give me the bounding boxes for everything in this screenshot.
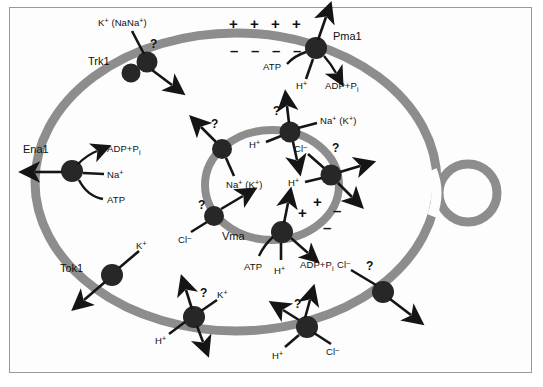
- pm-kh-up-arrow: [186, 290, 192, 309]
- vma-h-label: H+: [274, 265, 285, 277]
- vac-na-left-in-arrow: [226, 158, 234, 176]
- trk1-name-label: Trk1: [88, 55, 110, 67]
- pm-clh-out-arrow: [283, 310, 299, 320]
- vac-clh-cl-arrow: [308, 154, 324, 168]
- ena1-adp-label: ADP+Pi: [107, 143, 141, 156]
- vma-adp-label: ADP+Pi: [300, 259, 334, 272]
- pm-kh-k-label: K+: [217, 289, 228, 301]
- vac-nah-h-label: H+: [249, 139, 260, 151]
- pm-clh-cl-arrow: [314, 333, 331, 344]
- pma1-proton-label: H+: [296, 80, 307, 92]
- charge-plus: +: [250, 15, 259, 32]
- pm-clh-h-label: H+: [272, 350, 283, 362]
- budding-daughter-cell: [439, 164, 497, 222]
- vma-protein-body: [271, 221, 293, 243]
- vac-cl-left-in-arrow: [221, 196, 243, 209]
- pm-kh-k-arrow: [201, 300, 217, 311]
- trk1-efflux-arrow: [152, 70, 172, 85]
- pm-cl-label: Cl–: [337, 259, 350, 271]
- tok1-k-influx-arrow: [119, 251, 139, 268]
- transporter-vma[interactable]: Vma ATP H+ ADP+Pi: [222, 203, 334, 276]
- yeast-cell-diagram: + + + + – – – – + + – – K+ (NaNa+) ? Trk…: [0, 0, 543, 387]
- vac-charge-minus: –: [333, 202, 341, 219]
- pma1-adp-arrow: [324, 56, 336, 73]
- pma1-name-label: Pma1: [333, 30, 362, 42]
- vac-nah-protein-body: [280, 122, 301, 143]
- ena1-na-influx-arrow: [83, 173, 104, 174]
- transporter-ena1[interactable]: Ena1 ADP+Pi Na+ ATP: [23, 143, 141, 205]
- ena1-atp-arrow: [79, 180, 103, 199]
- trk1-unknown-marker: ?: [150, 37, 157, 51]
- pm-clh-cl-label: Cl–: [326, 346, 339, 358]
- pma1-adp-label: ADP+Pi: [325, 80, 359, 93]
- vac-clh-h-arrow: [305, 178, 322, 182]
- transporter-pm-kh-antiporter[interactable]: ? K+ H+: [155, 286, 228, 346]
- vac-charge-plus: +: [298, 204, 307, 221]
- vac-na-left-label: Na+ (K+): [226, 179, 262, 191]
- pm-kh-h-label: H+: [155, 335, 166, 347]
- charge-plus: +: [271, 15, 280, 32]
- vac-clh-unknown-marker: ?: [332, 141, 339, 155]
- figure-canvas: + + + + – – – – + + – – K+ (NaNa+) ? Trk…: [0, 0, 543, 387]
- vma-h-pump-arrow: [284, 203, 288, 223]
- ena1-adp-arrow: [78, 151, 97, 164]
- trk1-protein-body-2: [122, 64, 141, 83]
- pm-cl-unknown-marker: ?: [366, 259, 373, 273]
- pma1-atp-label: ATP: [263, 61, 281, 72]
- pm-kh-unknown-marker: ?: [200, 286, 207, 300]
- vac-na-left-unknown-marker: ?: [211, 117, 218, 131]
- vac-nah-unknown-marker: ?: [273, 104, 280, 118]
- ena1-na-label: Na+: [107, 169, 124, 181]
- tok1-k-label: K+: [136, 240, 147, 252]
- vac-charge-minus: –: [323, 219, 331, 236]
- vac-cl-left-out-arrow: [191, 222, 207, 232]
- charge-plus: +: [292, 15, 301, 32]
- charge-minus: –: [251, 42, 259, 59]
- vac-charge-plus: +: [313, 193, 322, 210]
- pma1-h-influx-arrow: [306, 59, 313, 79]
- vma-atp-label: ATP: [244, 261, 262, 272]
- vac-nah-up-arrow: [287, 106, 289, 123]
- pma1-h-efflux-arrow: [318, 17, 326, 40]
- vac-nah-na-arrow: [298, 123, 317, 128]
- pm-cl-efflux-arrow: [390, 299, 411, 315]
- vac-nah-na-label: Na+ (K+): [320, 115, 356, 127]
- ena1-name-label: Ena1: [23, 143, 49, 155]
- charge-minus: –: [230, 42, 238, 59]
- charge-minus: –: [272, 42, 280, 59]
- pm-clh-up-arrow: [305, 300, 310, 318]
- charge-plus: +: [229, 15, 238, 32]
- vac-cl-left-label: Cl–: [178, 234, 191, 246]
- pma1-protein-body: [305, 37, 327, 59]
- tok1-name-label: Tok1: [60, 262, 83, 274]
- vac-nah-h-arrow: [266, 136, 281, 142]
- vac-clh-out-arrow: [340, 166, 360, 172]
- vac-cl-left-unknown-marker: ?: [198, 198, 205, 212]
- vac-clh-cl-label: Cl–: [294, 143, 307, 155]
- pm-clh-h-arrow: [285, 335, 299, 347]
- vma-adp-arrow: [291, 238, 308, 253]
- ena1-atp-label: ATP: [107, 194, 125, 205]
- vac-clh-h-label: H+: [288, 177, 299, 189]
- pm-clh-unknown-marker: ?: [294, 297, 301, 311]
- trk1-substrate-label: K+ (NaNa+): [98, 17, 147, 29]
- vma-name-label: Vma: [222, 230, 246, 242]
